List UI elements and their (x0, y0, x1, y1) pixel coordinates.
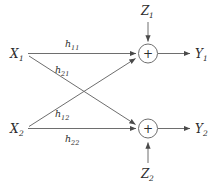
label-h12-subscript: 12 (61, 114, 69, 122)
adder-plus-2: + (143, 122, 153, 136)
label-x2: X (9, 122, 19, 136)
label-z2-subscript: 2 (148, 174, 154, 183)
label-h11-subscript: 11 (71, 44, 79, 52)
link-x2-to-adder1 (29, 59, 136, 127)
label-y2-subscript: 2 (202, 129, 208, 138)
label-x2-subscript: 2 (18, 129, 24, 138)
label-y1-subscript: 1 (203, 54, 208, 63)
label-x1-subscript: 1 (19, 54, 24, 63)
figure-canvas: + + X 1 X 2 Y 1 Y 2 Z 1 Z 2 h 11 h 21 h … (0, 0, 217, 186)
link-x1-to-adder2 (29, 56, 136, 125)
label-x1: X (9, 47, 19, 61)
label-z1-subscript: 1 (149, 11, 154, 20)
label-h21-subscript: 21 (60, 70, 69, 78)
channel-diagram: + + X 1 X 2 Y 1 Y 2 Z 1 Z 2 h 11 h 21 h … (0, 0, 217, 186)
adder-plus-1: + (143, 47, 153, 61)
label-h22-subscript: 22 (70, 139, 79, 147)
